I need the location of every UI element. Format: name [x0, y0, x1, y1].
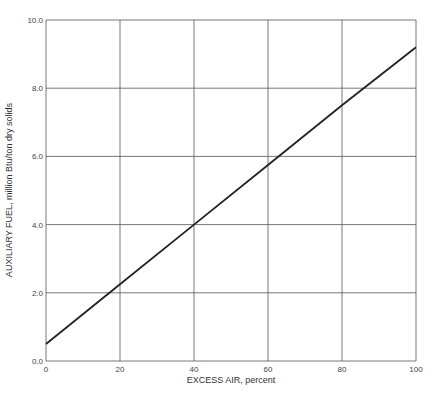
- grid: [46, 20, 416, 361]
- x-tick-label: 0: [44, 365, 49, 374]
- x-tick-label: 20: [116, 365, 125, 374]
- y-tick-label: 8.0: [32, 84, 44, 93]
- x-tick-label: 40: [190, 365, 199, 374]
- x-tick-label: 60: [264, 365, 273, 374]
- y-tick-label: 4.0: [32, 221, 44, 230]
- y-tick-label: 10.0: [27, 16, 43, 25]
- y-tick-label: 6.0: [32, 152, 44, 161]
- chart: 0204060801000.02.04.06.08.010.0 EXCESS A…: [0, 0, 434, 399]
- x-tick-label: 80: [338, 365, 347, 374]
- y-tick-label: 2.0: [32, 289, 44, 298]
- x-tick-label: 100: [409, 365, 423, 374]
- data-line: [46, 47, 416, 344]
- x-axis-label: EXCESS AIR, percent: [187, 375, 276, 385]
- tick-labels: 0204060801000.02.04.06.08.010.0: [27, 16, 423, 374]
- y-axis-label: AUXILIARY FUEL, million Btu/ton dry soli…: [4, 102, 14, 277]
- y-tick-label: 0.0: [32, 357, 44, 366]
